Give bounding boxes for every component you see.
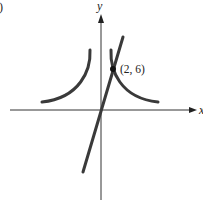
y-axis-label: y <box>96 0 103 13</box>
point-marker <box>110 66 116 72</box>
point-label: (2, 6) <box>120 63 145 76</box>
graph-figure: (2, 6) y x ) <box>0 0 203 200</box>
x-axis-arrow-icon <box>189 107 197 113</box>
curve-left-branch <box>42 50 90 102</box>
panel-label: ) <box>0 0 3 14</box>
y-axis-arrow-icon <box>98 14 104 23</box>
x-axis-label: x <box>198 103 203 117</box>
